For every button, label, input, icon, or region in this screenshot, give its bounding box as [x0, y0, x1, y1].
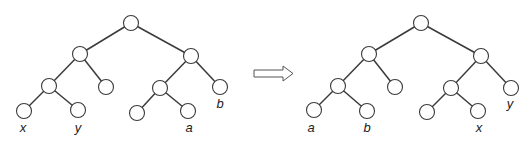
tree-node — [331, 79, 346, 94]
node-label: x — [475, 120, 483, 135]
tree-node — [184, 49, 199, 64]
node-label: b — [363, 120, 370, 135]
tree-node — [307, 103, 322, 118]
tree-diagram: xyba abyx — [0, 0, 531, 141]
tree-node — [362, 47, 377, 62]
tree-node — [124, 16, 139, 31]
tree-node — [360, 104, 375, 119]
tree-node — [99, 80, 114, 95]
tree-after: abyx — [307, 16, 519, 136]
tree-edge — [421, 23, 481, 56]
tree-node — [444, 81, 459, 96]
tree-node — [42, 79, 57, 94]
tree-node — [474, 49, 489, 64]
tree-node — [181, 104, 196, 119]
tree-node — [388, 80, 403, 95]
tree-node — [73, 47, 88, 62]
tree-node — [153, 81, 168, 96]
tree-edge — [131, 23, 191, 56]
tree-node — [130, 106, 145, 121]
tree-node — [71, 103, 86, 118]
tree-before: xyba — [17, 16, 228, 136]
right-arrow-icon — [254, 66, 293, 81]
node-label: a — [307, 120, 314, 135]
tree-node — [504, 81, 519, 96]
node-label: b — [216, 96, 223, 111]
tree-node — [471, 104, 486, 119]
node-label: y — [506, 96, 515, 111]
node-label: a — [185, 120, 192, 135]
tree-edge — [80, 23, 131, 54]
tree-node — [213, 80, 228, 95]
tree-edge — [369, 23, 421, 54]
tree-node — [414, 16, 429, 31]
tree-node — [17, 104, 32, 119]
tree-node — [420, 105, 435, 120]
node-label: x — [19, 120, 27, 135]
node-label: y — [74, 120, 83, 135]
